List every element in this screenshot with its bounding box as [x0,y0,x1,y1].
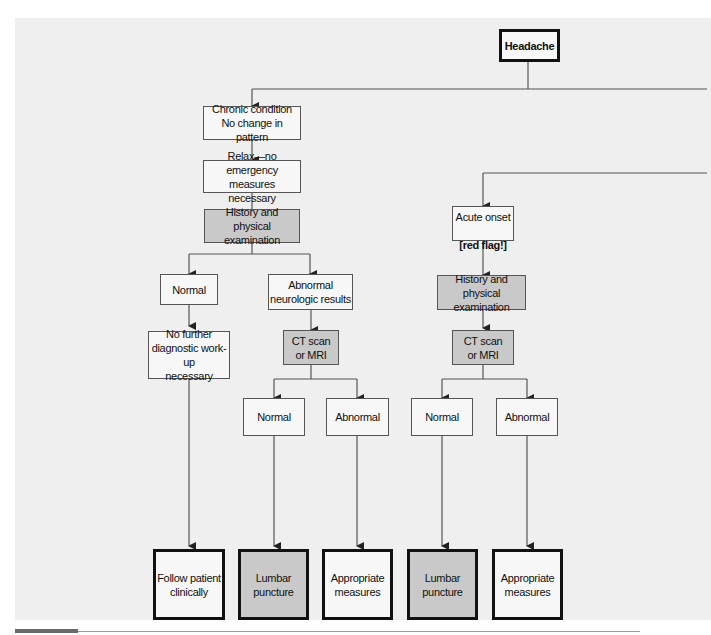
node-ct-mri-left: CT scan or MRI [283,330,339,365]
node-acute-onset: Acute onset [red flag!] [452,206,514,241]
outcome-appropriate-measures-right: Appropriate measures [492,549,563,620]
node-chronic-condition: Chronic condition No change in pattern [203,106,301,140]
node-normal-left: Normal [160,274,218,305]
bottom-rule-accent [15,629,78,633]
node-imaging-normal-left: Normal [243,398,305,436]
node-ct-mri-right: CT scan or MRI [452,330,514,365]
node-history-physical-left: History and physical examination [204,209,300,243]
outcome-appropriate-measures-left: Appropriate measures [322,549,393,620]
node-headache: Headache [499,29,560,62]
outcome-lumbar-puncture-left: Lumbar puncture [238,549,309,620]
node-history-physical-right: History and physical examination [437,275,526,310]
node-imaging-abnormal-right: Abnormal [496,398,558,436]
outcome-lumbar-puncture-right: Lumbar puncture [407,549,478,620]
node-imaging-normal-right: Normal [411,398,473,436]
acute-onset-label: Acute onset [456,211,511,223]
outcome-follow-patient: Follow patient clinically [153,549,225,620]
node-abnormal-neurologic: Abnormal neurologic results [268,274,353,310]
bottom-rule [15,631,640,632]
node-imaging-abnormal-left: Abnormal [326,398,389,436]
red-flag-label: [red flag!] [459,239,506,251]
node-relax: Relax—no emergency measures necessary [203,160,301,193]
node-no-further-workup: No further diagnostic work-up necessary [148,331,230,379]
acute-onset-text: Acute onset [red flag!] [456,196,511,252]
connector-lines [0,0,711,635]
